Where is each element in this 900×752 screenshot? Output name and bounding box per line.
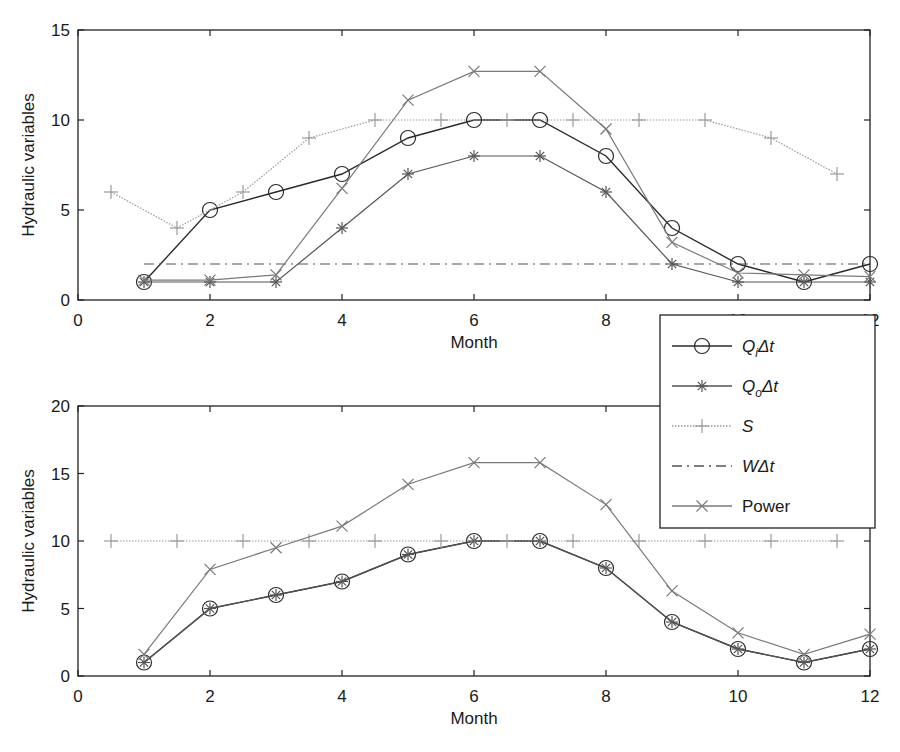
series-qot (138, 150, 876, 288)
data-point-marker (732, 643, 744, 655)
y-axis-label: Hydraulic variables (19, 93, 38, 237)
figure: 024681012051015MonthHydraulic variables … (0, 0, 900, 752)
data-point-marker (403, 479, 414, 490)
legend-marker (696, 380, 708, 392)
x-tick-label: 6 (469, 687, 478, 706)
data-point-marker (402, 549, 414, 561)
data-point-marker (600, 186, 612, 198)
data-point-marker (764, 534, 778, 548)
y-tick-label: 0 (61, 667, 70, 686)
legend: QiΔtQoΔtSWΔtPower (660, 315, 875, 528)
data-point-marker (434, 113, 448, 127)
data-point-marker (368, 113, 382, 127)
data-point-marker (336, 576, 348, 588)
data-point-marker (698, 534, 712, 548)
series-qit (137, 113, 878, 290)
x-axis-label: Month (450, 709, 497, 728)
data-point-marker (667, 585, 678, 596)
data-point-marker (666, 616, 678, 628)
series-qit (137, 534, 878, 671)
y-tick-label: 5 (61, 201, 70, 220)
data-point-marker (798, 276, 810, 288)
data-point-marker (336, 222, 348, 234)
data-point-marker (170, 221, 184, 235)
data-point-marker (830, 534, 844, 548)
data-point-marker (500, 534, 514, 548)
series-s (104, 113, 844, 235)
data-point-marker (302, 534, 316, 548)
data-point-marker (337, 521, 348, 532)
data-point-marker (566, 534, 580, 548)
data-point-marker (337, 183, 348, 194)
data-point-marker (698, 113, 712, 127)
y-tick-label: 0 (61, 291, 70, 310)
top-chart-panel: 024681012051015MonthHydraulic variables (19, 21, 879, 352)
data-point-marker (204, 276, 216, 288)
data-point-marker (601, 499, 612, 510)
x-tick-label: 8 (601, 311, 610, 330)
legend-label: Power (742, 497, 791, 516)
series-power (139, 66, 876, 286)
data-point-marker (500, 113, 514, 127)
data-point-marker (205, 564, 216, 575)
data-point-marker (468, 150, 480, 162)
y-tick-label: 5 (61, 600, 70, 619)
y-axis-label: Hydraulic variables (19, 469, 38, 613)
data-point-marker (601, 124, 612, 135)
data-point-marker (830, 167, 844, 181)
x-tick-label: 10 (729, 687, 748, 706)
y-tick-label: 15 (51, 21, 70, 40)
legend-label: S (742, 417, 754, 436)
data-point-marker (402, 168, 414, 180)
data-point-marker (270, 589, 282, 601)
data-point-marker (534, 150, 546, 162)
x-tick-label: 4 (337, 687, 346, 706)
data-point-marker (566, 113, 580, 127)
x-tick-label: 2 (205, 311, 214, 330)
x-tick-label: 8 (601, 687, 610, 706)
axes-frame (78, 30, 870, 300)
data-point-marker (104, 185, 118, 199)
data-point-marker (667, 237, 678, 248)
data-point-marker (600, 562, 612, 574)
data-point-marker (170, 534, 184, 548)
data-point-marker (302, 131, 316, 145)
data-point-marker (733, 627, 744, 638)
data-point-marker (271, 542, 282, 553)
data-point-marker (403, 95, 414, 106)
y-tick-label: 20 (51, 397, 70, 416)
data-point-marker (864, 643, 876, 655)
x-tick-label: 4 (337, 311, 346, 330)
data-point-marker (368, 534, 382, 548)
series-qot (138, 535, 876, 669)
data-point-marker (434, 534, 448, 548)
data-point-marker (236, 185, 250, 199)
data-point-marker (236, 534, 250, 548)
data-point-marker (104, 534, 118, 548)
x-axis-label: Month (450, 333, 497, 352)
x-tick-label: 2 (205, 687, 214, 706)
y-tick-label: 10 (51, 111, 70, 130)
data-point-marker (138, 276, 150, 288)
x-tick-label: 6 (469, 311, 478, 330)
data-point-marker (632, 113, 646, 127)
legend-label: WΔt (742, 457, 775, 476)
y-tick-label: 10 (51, 532, 70, 551)
x-tick-label: 12 (861, 687, 880, 706)
y-tick-label: 15 (51, 465, 70, 484)
x-tick-label: 0 (73, 311, 82, 330)
data-point-marker (764, 131, 778, 145)
data-point-marker (204, 603, 216, 615)
x-tick-label: 0 (73, 687, 82, 706)
data-point-marker (270, 276, 282, 288)
data-point-marker (864, 276, 876, 288)
